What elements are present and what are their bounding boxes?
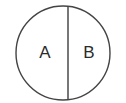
circle-outline xyxy=(16,6,110,100)
region-label-b: B xyxy=(83,43,94,62)
divided-circle-diagram: A B xyxy=(0,0,126,103)
diagram-canvas: A B xyxy=(0,0,126,103)
region-label-a: A xyxy=(39,43,51,62)
